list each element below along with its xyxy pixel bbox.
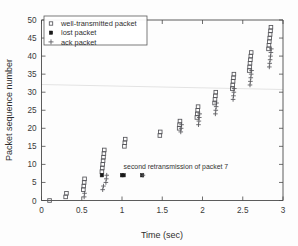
data-point-marker [268,40,272,44]
annotation-layer: second retransmission of packet 7 [124,163,229,171]
data-point-marker [82,184,86,188]
y-tick-label: 5 [32,178,37,187]
y-tick-label: 10 [27,160,37,169]
data-point-marker [100,187,105,192]
series-0 [48,25,273,202]
data-point-marker [268,36,272,40]
data-point-marker [100,174,103,177]
data-point-marker [100,170,104,174]
x-tick-label: 2 [200,206,205,215]
data-point-marker [267,43,271,47]
data-point-marker [158,130,162,134]
data-point-marker [248,65,252,69]
x-tick-label: 0.5 [76,206,88,215]
y-tick-label: 20 [27,124,37,133]
data-point-marker [214,90,218,94]
data-point-marker [269,29,273,33]
data-point-marker [249,58,253,62]
data-point-marker [232,72,236,76]
data-point-marker [65,191,69,195]
y-tick-label: 45 [27,34,37,43]
data-point-marker [101,184,106,189]
packet-sequence-chart: 00.511.522.53 05101520253035404550 Time … [0,0,298,246]
data-series-layer [48,25,274,202]
y-tick-label: 30 [27,88,37,97]
data-point-marker [249,51,253,55]
x-axis-ticks: 00.511.522.53 [39,20,286,215]
data-point-marker [196,105,200,109]
data-point-marker [213,98,217,102]
legend-label-0: well-transmitted packet [60,19,137,28]
data-point-marker [82,188,86,192]
data-point-marker [104,173,109,178]
data-point-marker [249,54,253,58]
data-point-marker [83,177,87,181]
y-tick-label: 25 [27,106,37,115]
y-tick-label: 50 [27,16,37,25]
data-point-marker [101,163,105,167]
x-axis-title: Time (sec) [141,230,183,240]
data-point-marker [158,134,162,138]
data-point-marker [178,119,182,123]
data-point-marker [123,137,127,141]
chart-legend: well-transmitted packetlost packetack pa… [44,16,147,47]
x-tick-label: 0 [39,206,44,215]
data-point-marker [231,83,235,87]
chart-annotation: second retransmission of packet 7 [124,163,229,171]
data-point-marker [268,33,272,37]
data-point-marker [123,141,127,145]
data-point-marker [232,76,236,80]
scan-artifact [41,85,283,90]
data-point-marker [214,94,218,98]
data-point-marker [231,80,235,84]
data-point-marker [102,152,106,156]
legend-label-2: ack packet [61,38,96,47]
data-point-marker [248,62,252,66]
data-point-marker [123,145,127,149]
legend-symbol-1-marker [49,31,52,34]
x-tick-label: 1.5 [157,206,169,215]
data-point-marker [64,195,68,199]
data-point-marker [82,181,86,185]
data-point-marker [100,166,104,170]
chart-canvas: 00.511.522.53 05101520253035404550 Time … [0,0,298,246]
data-point-marker [122,174,125,177]
x-tick-label: 1 [120,206,125,215]
data-point-marker [196,108,200,112]
y-tick-label: 40 [27,52,37,61]
legend-label-1: lost packet [61,28,96,37]
x-tick-label: 3 [281,206,286,215]
y-axis-title: Packet sequence number [4,59,14,161]
data-point-marker [101,159,105,163]
data-point-marker [269,25,273,29]
y-tick-label: 35 [27,70,37,79]
y-tick-label: 0 [32,197,37,206]
axes-frame [42,20,284,201]
data-point-marker [102,148,106,152]
data-point-marker [102,155,106,159]
y-tick-label: 15 [27,142,37,151]
x-tick-label: 2.5 [237,206,249,215]
